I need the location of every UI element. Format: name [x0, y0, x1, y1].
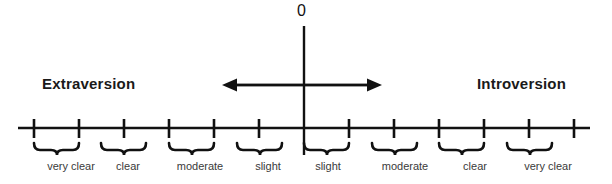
band-brace: [34, 143, 79, 155]
zero-point-label: 0: [297, 3, 306, 19]
band-label-extraversion-slight: slight: [255, 161, 281, 172]
band-label-extraversion-clear: clear: [116, 161, 140, 172]
band-label-introversion-clear: clear: [463, 161, 487, 172]
band-brace: [169, 143, 214, 155]
band-label-extraversion-moderate: moderate: [177, 161, 223, 172]
band-brace: [237, 143, 282, 155]
pole-label-extraversion: Extraversion: [42, 76, 135, 91]
band-brace: [304, 143, 349, 155]
scale-diagram-svg: [0, 0, 612, 184]
band-brace: [439, 143, 484, 155]
band-brace: [101, 143, 146, 155]
double-headed-arrow-icon: [222, 79, 382, 92]
band-label-introversion-slight: slight: [315, 161, 341, 172]
band-brace: [507, 143, 552, 155]
band-label-introversion-very-clear: very clear: [524, 161, 572, 172]
band-label-extraversion-very-clear: very clear: [47, 161, 95, 172]
extraversion-introversion-scale-figure: 0 Extraversion Introversion very clear c…: [0, 0, 612, 184]
band-brace: [372, 143, 417, 155]
band-brace-group: [34, 143, 552, 155]
pole-label-introversion: Introversion: [477, 76, 566, 91]
band-label-introversion-moderate: moderate: [382, 161, 428, 172]
